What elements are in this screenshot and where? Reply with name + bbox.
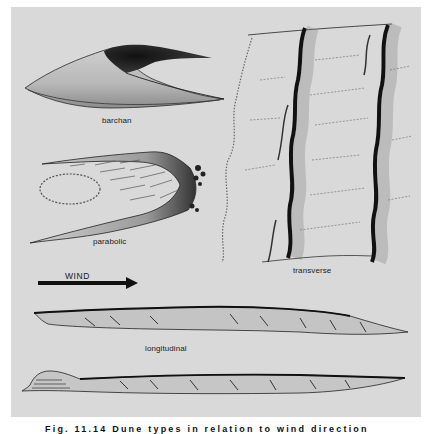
barchan-dune — [25, 45, 224, 108]
dune-illustration — [11, 7, 421, 417]
figure-caption: Fig. 11.14 Dune types in relation to win… — [45, 424, 369, 434]
label-transverse: transverse — [293, 266, 331, 275]
label-longitudinal: longitudinal — [145, 344, 187, 353]
parabolic-dune — [30, 152, 206, 243]
longitudinal-dune-upper — [34, 307, 408, 334]
longitudinal-dune-lower — [22, 371, 405, 394]
figure-panel: barchan parabolic transverse longitudina… — [11, 7, 421, 417]
label-barchan: barchan — [102, 116, 132, 125]
label-parabolic: parabolic — [93, 237, 126, 246]
label-wind: WIND — [65, 271, 90, 281]
transverse-dunes — [222, 24, 412, 262]
